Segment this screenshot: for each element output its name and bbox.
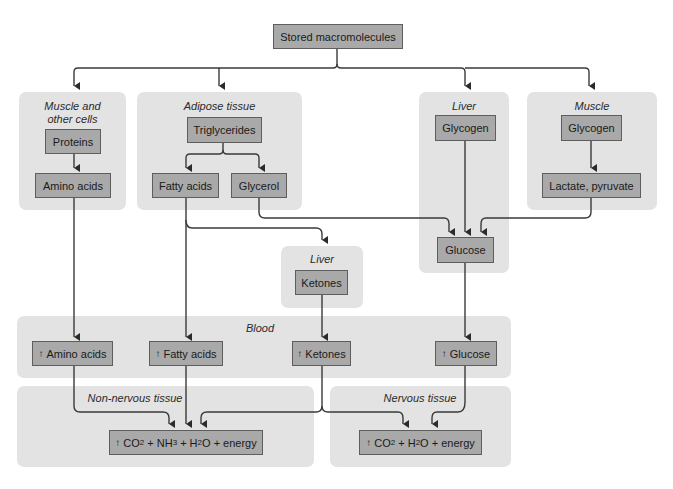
increase-arrow-icon: ↑ bbox=[297, 348, 302, 359]
node-ketones: Ketones bbox=[295, 270, 348, 295]
node-lactate-pyruvate: Lactate, pyruvate bbox=[542, 173, 641, 198]
blood-fatty-acids-label: Fatty acids bbox=[163, 348, 216, 360]
h2o-text: + H bbox=[395, 437, 415, 449]
node-fatty-acids: Fatty acids bbox=[152, 173, 219, 198]
node-stored-macromolecules: Stored macromolecules bbox=[273, 24, 403, 49]
node-blood-fatty-acids: ↑Fatty acids bbox=[149, 341, 223, 366]
node-glycerol: Glycerol bbox=[231, 173, 287, 198]
increase-arrow-icon: ↑ bbox=[442, 348, 447, 359]
node-nervous-output: ↑CO2 + H2O + energy bbox=[359, 430, 482, 455]
increase-arrow-icon: ↑ bbox=[115, 437, 120, 448]
node-blood-glucose: ↑Glucose bbox=[435, 341, 497, 366]
nh3-text: + NH bbox=[144, 437, 172, 449]
connector-arrows bbox=[0, 0, 673, 489]
increase-arrow-icon: ↑ bbox=[39, 348, 44, 359]
co2-text: CO bbox=[123, 437, 140, 449]
node-proteins: Proteins bbox=[45, 129, 101, 154]
h2o-text: + H bbox=[177, 437, 197, 449]
energy-text: O + energy bbox=[420, 437, 475, 449]
node-glucose: Glucose bbox=[437, 237, 494, 263]
energy-text: O + energy bbox=[202, 437, 257, 449]
node-muscle-glycogen: Glycogen bbox=[561, 115, 622, 141]
node-blood-ketones: ↑Ketones bbox=[292, 341, 351, 366]
increase-arrow-icon: ↑ bbox=[155, 348, 160, 359]
blood-ketones-label: Ketones bbox=[305, 348, 345, 360]
node-liver-glycogen: Glycogen bbox=[435, 115, 496, 141]
node-non-nervous-output: ↑CO2 + NH3 + H2O + energy bbox=[109, 430, 263, 455]
node-amino-acids: Amino acids bbox=[35, 173, 111, 198]
node-triglycerides: Triglycerides bbox=[187, 117, 262, 143]
increase-arrow-icon: ↑ bbox=[366, 437, 371, 448]
blood-amino-acids-label: Amino acids bbox=[47, 348, 107, 360]
blood-glucose-label: Glucose bbox=[450, 348, 490, 360]
node-blood-amino-acids: ↑Amino acids bbox=[32, 341, 113, 366]
co2-text: CO bbox=[374, 437, 391, 449]
